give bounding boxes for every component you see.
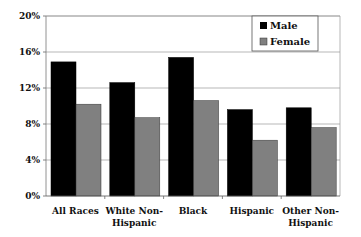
- y-tick-label: 12%: [19, 83, 41, 93]
- legend-label-female: Female: [270, 36, 310, 47]
- y-tick-label: 8%: [25, 119, 40, 129]
- bar-female: [252, 140, 277, 196]
- bar-female: [135, 118, 160, 196]
- legend: Male Female: [252, 16, 318, 51]
- x-category-label: All Races: [51, 206, 99, 216]
- y-tick-labels: 0%4%8%12%16%20%: [19, 11, 41, 201]
- y-tick-label: 20%: [19, 11, 41, 21]
- bar-chart: 0%4%8%12%16%20% All RacesWhite Non-Hispa…: [0, 0, 361, 237]
- bar-female: [311, 128, 336, 196]
- x-category-label: Black: [179, 206, 208, 216]
- bar-male: [51, 62, 76, 196]
- y-tick-label: 0%: [25, 191, 40, 201]
- legend-swatch-female: [260, 38, 267, 45]
- x-category-label: Hispanic: [288, 218, 333, 228]
- y-tick-label: 16%: [19, 47, 41, 57]
- legend-label-male: Male: [270, 20, 298, 31]
- bar-female: [76, 104, 101, 196]
- bar-female: [194, 101, 219, 196]
- x-category-label: Hispanic: [112, 218, 157, 228]
- x-category-label: Hispanic: [230, 206, 275, 216]
- x-category-label: White Non-: [104, 206, 163, 216]
- legend-swatch-male: [260, 22, 267, 29]
- x-category-label: Other Non-: [282, 206, 339, 216]
- bar-male: [169, 57, 194, 196]
- bar-male: [286, 108, 311, 196]
- bar-male: [227, 110, 252, 196]
- bar-male: [110, 83, 135, 196]
- bars: [51, 57, 336, 196]
- x-category-labels: All RacesWhite Non-HispanicBlackHispanic…: [51, 206, 339, 228]
- y-tick-label: 4%: [25, 155, 40, 165]
